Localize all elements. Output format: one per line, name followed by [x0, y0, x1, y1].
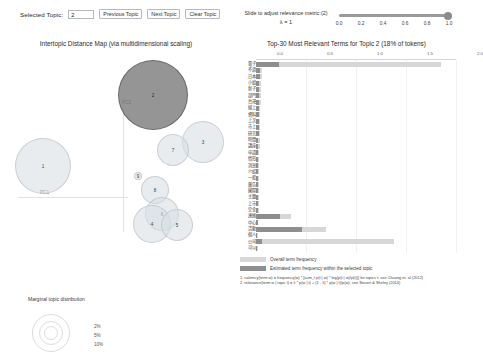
term-label[interactable]: 主題 — [234, 194, 256, 200]
term-label[interactable]: 講座 — [234, 143, 256, 149]
footnotes: 1. saliency(term w) = frequency(w) * [su… — [240, 275, 460, 286]
term-label[interactable]: 線上 — [234, 105, 256, 111]
term-label[interactable]: 活動 — [234, 226, 256, 232]
term-label[interactable]: 一般 — [234, 175, 256, 181]
topic-controls: Selected Topic: 2 Previous Topic Next To… — [20, 9, 220, 19]
bar-axis-tick-labels: 0.00.51.01.52.0 — [256, 51, 456, 59]
footnote-relevance: 2. relevance(term w | topic t) = λ * p(w… — [240, 280, 460, 285]
mtd-tick-10: 10% — [94, 342, 103, 347]
bar-overall-frequency — [256, 239, 394, 244]
legend-swatch-overall — [240, 257, 266, 262]
slider-tick-0.0: 0.0 — [336, 21, 343, 26]
slider-tick-0.8: 0.8 — [424, 21, 431, 26]
bar-topic-frequency — [256, 239, 262, 244]
bar-topic-frequency — [256, 163, 258, 168]
relevant-terms-barchart: 0.00.51.01.52.0 電子不過日本小姐新子部門台灣線上資料上次市上研究… — [232, 50, 461, 302]
bar-topic-frequency — [256, 131, 259, 136]
bar-topic-frequency — [256, 68, 260, 73]
bar-topic-frequency — [256, 176, 258, 181]
legend-row-overall: Overall term frequency — [240, 255, 460, 263]
topic-bubble-3[interactable]: 3 — [182, 121, 224, 163]
term-label[interactable]: 個人 — [234, 232, 256, 238]
term-label[interactable]: 國際 — [234, 188, 256, 194]
term-label[interactable]: 中心 — [234, 220, 256, 226]
term-label[interactable]: 介紹 — [234, 169, 256, 175]
term-label[interactable]: 台灣 — [234, 99, 256, 105]
bar-legend: Overall term frequency Estimated term fr… — [240, 255, 460, 286]
bar-row[interactable]: 可以 — [232, 245, 461, 251]
term-label[interactable]: 連絡 — [234, 213, 256, 219]
bar-topic-frequency — [256, 182, 258, 187]
term-label[interactable]: 廣告 — [234, 182, 256, 188]
term-label[interactable]: 可以 — [234, 245, 256, 251]
bar-topic-frequency — [256, 169, 258, 174]
term-label[interactable]: 資料 — [234, 112, 256, 118]
bar-topic-frequency — [256, 81, 259, 86]
clear-topic-button[interactable]: Clear Topic — [185, 9, 220, 19]
selected-topic-input[interactable]: 2 — [68, 10, 94, 19]
slider-tick-0.6: 0.6 — [402, 21, 409, 26]
bar-topic-frequency — [256, 119, 259, 124]
bar-topic-frequency — [256, 201, 258, 206]
topic-bubble-1[interactable]: 1 — [15, 138, 71, 194]
bar-tick-1.0: 1.0 — [377, 51, 383, 56]
term-label[interactable]: 申請 — [234, 150, 256, 156]
relevance-slider[interactable]: 0.00.20.40.60.81.0 — [336, 11, 454, 31]
term-label[interactable]: 時間 — [234, 137, 256, 143]
slider-track[interactable] — [339, 14, 449, 17]
topic-bubble-label: 1 — [16, 164, 70, 169]
term-label[interactable]: 小姐 — [234, 80, 256, 86]
bar-topic-frequency — [256, 150, 258, 155]
relevant-terms-title: Top-30 Most Relevant Terms for Topic 2 (… — [232, 40, 461, 47]
pc1-axis-line — [18, 197, 128, 198]
term-label[interactable]: 情形 — [234, 156, 256, 162]
term-label[interactable]: 日本 — [234, 74, 256, 80]
bar-topic-frequency — [256, 93, 259, 98]
term-label[interactable]: 消息 — [234, 163, 256, 169]
bar-topic-frequency — [256, 227, 302, 232]
bar-rows: 電子不過日本小姐新子部門台灣線上資料上次市上研究時間講座申請情形消息介紹一般廣告… — [232, 61, 461, 251]
term-label[interactable]: 部門 — [234, 93, 256, 99]
bar-topic-frequency — [256, 138, 258, 143]
bar-topic-frequency — [256, 188, 258, 193]
pc2-axis-line — [123, 107, 124, 232]
slider-tick-labels: 0.00.20.40.60.81.0 — [336, 21, 454, 31]
bar-topic-frequency — [256, 106, 259, 111]
topbar: Selected Topic: 2 Previous Topic Next To… — [0, 0, 461, 32]
term-label[interactable]: 上市 — [234, 201, 256, 207]
mtd-circle-2 — [44, 326, 58, 340]
bar-topic-frequency — [256, 100, 259, 105]
slider-tick-1.0: 1.0 — [446, 21, 453, 26]
slider-tick-0.4: 0.4 — [380, 21, 387, 26]
bar-topic-frequency — [256, 157, 258, 162]
topic-bubble-5[interactable]: 5 — [161, 209, 193, 241]
previous-topic-button[interactable]: Previous Topic — [99, 9, 142, 19]
term-label[interactable]: 不過 — [234, 67, 256, 73]
bar-topic-frequency — [256, 112, 259, 117]
next-topic-button[interactable]: Next Topic — [147, 9, 180, 19]
term-label[interactable]: 電子 — [234, 61, 256, 67]
mtd-tick-2: 2% — [94, 324, 101, 329]
legend-row-topic: Estimated term frequency within the sele… — [240, 264, 460, 272]
topic-bubble-7[interactable]: 7 — [157, 134, 189, 166]
term-label[interactable]: 完全 — [234, 207, 256, 213]
relevance-slider-block: Slide to adjust relevance metric:(2) λ =… — [236, 7, 458, 33]
slider-handle[interactable] — [444, 12, 452, 20]
bar-topic-frequency — [256, 144, 258, 149]
term-label[interactable]: 研究 — [234, 131, 256, 137]
term-label[interactable]: 市上 — [234, 124, 256, 130]
topic-bubble-label: 3 — [183, 140, 223, 145]
topic-bubble-2[interactable]: 2 — [118, 60, 188, 130]
bar-topic-frequency — [256, 195, 258, 200]
term-label[interactable]: 公司 — [234, 239, 256, 245]
topic-bubble-label: 9 — [135, 174, 141, 179]
term-label[interactable]: 上次 — [234, 118, 256, 124]
term-label[interactable]: 新子 — [234, 86, 256, 92]
bar-topic-frequency — [256, 214, 280, 219]
bar-tick-1.5: 1.5 — [427, 51, 433, 56]
bar-topic-frequency — [256, 208, 258, 213]
topic-bubble-9[interactable]: 9 — [134, 172, 142, 180]
topic-bubble-label: 8 — [142, 188, 168, 193]
topic-bubble-label: 2 — [119, 93, 187, 98]
